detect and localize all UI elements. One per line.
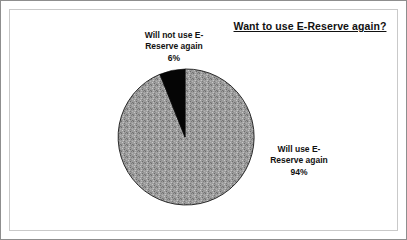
pie-chart-svg [115,67,255,207]
chart-figure: Want to use E-Reserve again? [0,0,407,240]
pie-label-will-use: Will use E- Reserve again 94% [259,144,339,178]
chart-title: Want to use E-Reserve again? [229,20,391,33]
pie-chart [115,67,255,207]
pie-slice-will-use [118,69,254,205]
pie-label-will-not-use: Will not use E- Reserve again 6% [132,30,216,64]
